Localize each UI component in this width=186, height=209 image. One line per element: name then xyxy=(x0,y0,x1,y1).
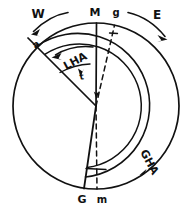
label-body-a: a xyxy=(30,38,42,51)
label-lha: LHA xyxy=(61,49,89,72)
label-west: W xyxy=(31,7,44,21)
label-t: t xyxy=(79,71,86,82)
label-greenwich-bottom: G xyxy=(77,193,86,206)
label-meridian-top: M xyxy=(90,6,101,19)
observer-meridian-lower-dashed xyxy=(96,106,97,189)
label-meridian-bottom: m xyxy=(97,194,107,205)
navigation-diagram-figure: W E M g a LHA t GHA G m xyxy=(0,0,186,209)
east-arrowhead xyxy=(157,35,168,42)
label-east: E xyxy=(153,8,161,22)
gha-base-tick xyxy=(86,169,106,170)
gha-inner-arc xyxy=(45,44,141,168)
gha-outer-arc xyxy=(37,33,150,177)
hour-angle-diagram-svg: W E M g a LHA t GHA G m xyxy=(0,0,186,209)
label-greenwich-top: g xyxy=(112,7,119,18)
greenwich-tick-mark xyxy=(110,33,118,34)
